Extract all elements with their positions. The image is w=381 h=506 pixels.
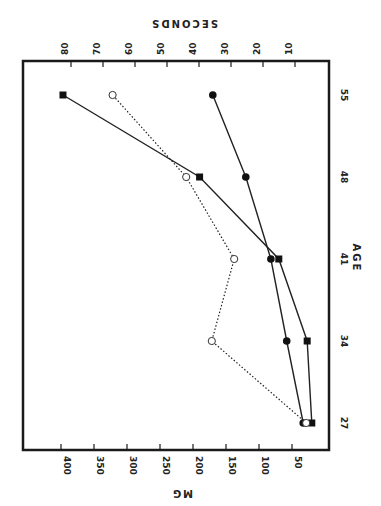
mg-tick-label: 100 [260, 456, 270, 475]
mg-tick-label: 200 [194, 456, 204, 475]
filled-squares-point [275, 256, 282, 263]
seconds-tick-label: 80 [60, 42, 70, 55]
age-tick-label: 41 [339, 253, 349, 266]
plot-frame [23, 61, 329, 450]
filled-squares-point [196, 174, 203, 181]
mg-tick-label: 150 [227, 456, 237, 475]
seconds-tick-label: 70 [92, 42, 102, 55]
filled-squares-point [304, 338, 311, 345]
open-circles-point [231, 255, 238, 262]
age-axis: 2734414855 [339, 89, 349, 430]
filled-circles-line [213, 95, 303, 423]
mg-tick-label: 350 [95, 456, 105, 475]
filled-circles-point [209, 91, 217, 99]
filled-circles-point [267, 255, 275, 263]
age-tick-label: 55 [339, 89, 349, 102]
filled-circles-point [242, 173, 250, 181]
age-tick-label: 34 [339, 335, 349, 348]
chart: 50100150200250300350400 1020304050607080… [0, 0, 381, 506]
mg-axis: 50100150200250300350400 [61, 444, 303, 475]
open-circles-point [109, 91, 116, 98]
seconds-tick-label: 60 [124, 42, 134, 55]
mg-tick-label: 300 [128, 456, 138, 475]
age-axis-title: AGE [351, 244, 362, 273]
seconds-tick-label: 20 [252, 42, 262, 55]
open-circles-point [183, 173, 190, 180]
filled-squares-point [59, 92, 66, 99]
seconds-tick-label: 40 [188, 42, 198, 55]
mg-tick-label: 250 [161, 456, 171, 475]
seconds-tick-label: 10 [284, 42, 294, 55]
age-tick-label: 48 [339, 171, 349, 184]
mg-axis-title: MG [171, 488, 193, 499]
mg-tick-label: 50 [293, 456, 303, 469]
open-circles-point [303, 419, 310, 426]
seconds-tick-label: 30 [220, 42, 230, 55]
mg-tick-label: 400 [62, 456, 72, 475]
open-circles-point [208, 337, 215, 344]
seconds-tick-label: 50 [156, 42, 166, 55]
seconds-axis: 1020304050607080 [60, 42, 295, 67]
series-layer [59, 91, 315, 427]
age-tick-label: 27 [339, 417, 349, 430]
seconds-axis-title: SECONDS [150, 18, 218, 29]
filled-circles-point [283, 337, 291, 345]
